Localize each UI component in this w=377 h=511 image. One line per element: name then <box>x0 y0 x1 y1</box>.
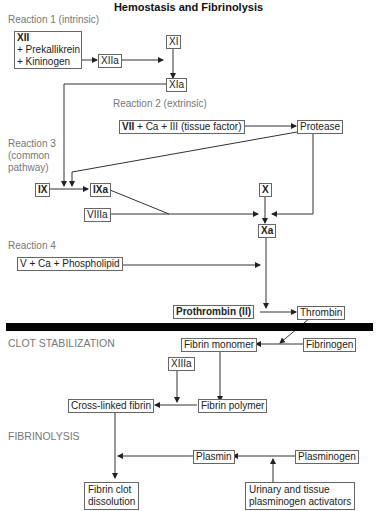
dissolution-line1: Fibrin clot <box>88 484 135 496</box>
node-xia: XIa <box>166 78 187 92</box>
node-xa: Xa <box>258 224 276 238</box>
node-xi: XI <box>166 35 181 49</box>
node-vii-rest: + Ca + III (tissue factor) <box>134 121 241 132</box>
node-xiia: XIIa <box>98 54 122 68</box>
activators-line2: plasminogen activators <box>249 496 351 508</box>
node-xii-kininogen: + Kininogen <box>17 56 79 68</box>
dissolution-line2: dissolution <box>88 496 135 508</box>
node-fibrin-clot-dissolution: Fibrin clot dissolution <box>84 482 139 510</box>
clot-stabilization-label: CLOT STABILIZATION <box>8 337 115 349</box>
node-ixa: IXa <box>90 183 111 197</box>
node-v-complex: V + Ca + Phospholipid <box>17 257 123 271</box>
node-xiiia: XIIIa <box>168 357 195 371</box>
node-x: X <box>259 183 272 197</box>
reaction3-label-line2: (common <box>8 150 50 162</box>
reaction3-label-line3: pathway) <box>8 162 49 174</box>
node-plasminogen-activators: Urinary and tissue plasminogen activator… <box>245 482 355 510</box>
node-fibrin-polymer: Fibrin polymer <box>198 399 267 413</box>
node-ix: IX <box>35 183 50 197</box>
node-vii-complex: VII + Ca + III (tissue factor) <box>119 120 245 134</box>
node-fibrin-monomer: Fibrin monomer <box>181 338 257 352</box>
activators-line1: Urinary and tissue <box>249 484 351 496</box>
node-plasmin: Plasmin <box>193 450 235 464</box>
section-divider <box>6 323 373 331</box>
node-prothrombin: Prothrombin (II) <box>173 305 254 319</box>
node-plasminogen: Plasminogen <box>295 450 359 464</box>
node-viiia: VIIIa <box>84 208 111 222</box>
node-xii-prekallikrein: + Prekallikrein <box>17 44 79 56</box>
reaction1-label: Reaction 1 (intrinsic) <box>8 14 99 26</box>
node-vii-bold: VII <box>122 121 134 132</box>
node-xii-head: XII <box>17 32 79 44</box>
node-thrombin: Thrombin <box>297 306 345 320</box>
node-cross-linked-fibrin: Cross-linked fibrin <box>68 399 154 413</box>
node-fibrinogen: Fibrinogen <box>303 338 356 352</box>
node-xii-complex: XII + Prekallikrein + Kininogen <box>14 31 82 69</box>
reaction3-label-line1: Reaction 3 <box>8 138 56 150</box>
fibrinolysis-label: FIBRINOLYSIS <box>8 430 80 442</box>
reaction2-label: Reaction 2 (extrinsic) <box>113 98 207 110</box>
reaction4-label: Reaction 4 <box>8 240 56 252</box>
node-protease: Protease <box>297 120 343 134</box>
